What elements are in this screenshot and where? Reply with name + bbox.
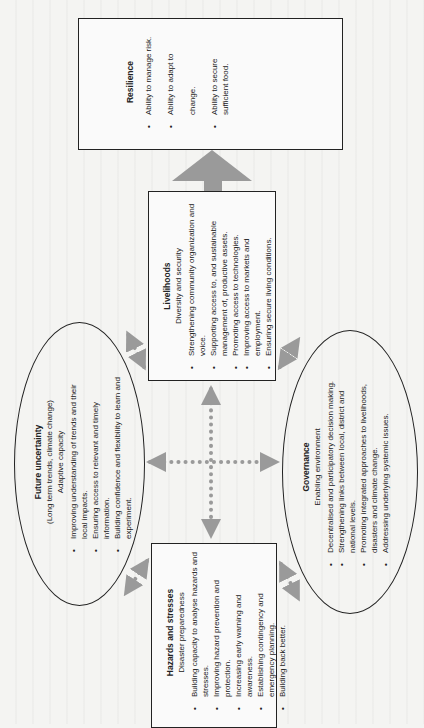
future-uncertainty-item: Building confidence and flexibility to l…: [112, 369, 134, 555]
livelihoods-item: Ensuring secure living conditions.: [263, 200, 274, 372]
livelihoods-item: Improving access to markets and employme…: [241, 200, 263, 372]
link-hazards-future: [126, 561, 147, 593]
hazards-item: Establishing contingency and emergency p…: [255, 552, 277, 713]
hazards-item: Increasing early warning and awareness.: [233, 552, 255, 713]
hazards-box: Hazards and stresses Disaster preparedne…: [151, 543, 277, 728]
livelihoods-box: Livelihoods Diversity and security Stren…: [148, 191, 276, 381]
future-uncertainty-item: Ensuring access to relevant and timely i…: [90, 369, 112, 555]
governance-item: Decentralised and participatory decision…: [325, 365, 336, 569]
hazards-item: Building back better.: [277, 552, 288, 713]
livelihoods-subtitle: Diversity and security: [173, 200, 184, 372]
resilience-item: Ability to adapt to change.: [160, 33, 204, 131]
link-livelihoods-future: [128, 334, 144, 367]
resilience-item: Ability to secure sufficient food.: [209, 33, 231, 131]
hazards-title: Hazards and stresses: [165, 552, 176, 713]
link-livelihoods-governance: [280, 340, 298, 367]
livelihoods-item: Supporting access to, and sustainable ma…: [208, 200, 230, 372]
livelihoods-item: Strengthening community organization and…: [186, 200, 208, 372]
governance-item: Promoting integrated approaches to livel…: [358, 365, 380, 569]
governance-list: Decentralised and participatory decision…: [325, 365, 391, 569]
governance-title: Governance: [301, 365, 312, 569]
future-uncertainty-ellipse: Future uncertainty (Long term trends, cl…: [14, 322, 145, 606]
livelihoods-list: Strengthening community organization and…: [186, 200, 274, 372]
hazards-list: Building capacity to analyse hazards and…: [189, 552, 288, 713]
hazards-item: Improving hazard prevention and protecti…: [211, 552, 233, 713]
future-uncertainty-subtitle: Adaptive capacity: [55, 369, 66, 555]
big-arrow-to-resilience: [172, 150, 252, 191]
hazards-item: Building capacity to analyse hazards and…: [189, 552, 211, 713]
future-uncertainty-list: Improving understanding of trends and th…: [68, 369, 134, 555]
resilience-box: Resilience Ability to manage risk. Abili…: [78, 18, 343, 150]
resilience-list: Ability to manage risk. Ability to adapt…: [138, 33, 231, 131]
future-uncertainty-item: Improving understanding of trends and th…: [68, 369, 90, 555]
resilience-item: Ability to manage risk.: [138, 33, 160, 131]
governance-item: Strengthening links between local, distr…: [336, 365, 358, 569]
hazards-subtitle: Disaster preparedness: [176, 552, 187, 713]
governance-ellipse: Governance Enabling environment Decentra…: [282, 330, 418, 614]
governance-subtitle: Enabling environment: [312, 365, 323, 569]
livelihoods-item: Promoting access to technologies.: [230, 200, 241, 372]
resilience-title: Resilience: [125, 33, 136, 131]
governance-item: Addressing underlying systemic issues.: [380, 365, 391, 569]
livelihoods-title: Livelihoods: [162, 200, 173, 372]
future-uncertainty-title: Future uncertainty: [33, 369, 44, 555]
future-uncertainty-note: (Long term trends, climate change): [44, 369, 55, 555]
